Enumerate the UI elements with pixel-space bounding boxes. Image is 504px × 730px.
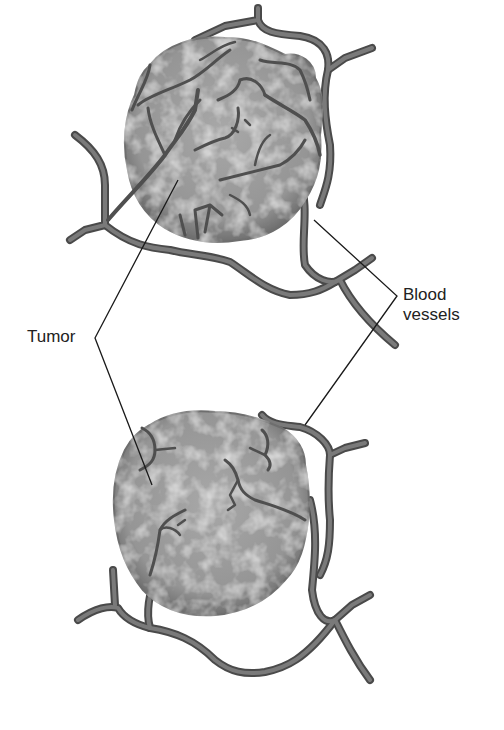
lower-tumor-group [78,411,370,680]
angiogenesis-figure [0,0,504,730]
blood-vessels-label-line2: vessels [403,305,460,325]
lower-tumor-body [114,411,309,615]
blood-vessels-label-line1: Blood [403,285,460,305]
upper-tumor-group [70,8,395,345]
tumor-label: Tumor [27,327,76,347]
blood-vessels-leader-line [305,220,397,425]
blood-vessels-label: Blood vessels [403,285,460,325]
